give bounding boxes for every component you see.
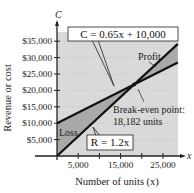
y-tick-label: $25,000: [22, 69, 52, 79]
y-tick-label: $20,000: [22, 85, 52, 95]
y-tick-label: $35,000: [22, 36, 52, 46]
break-even-chart: $5,000$10,000$15,000$20,000$25,000$30,00…: [0, 0, 194, 193]
y-axis-arrow-icon: [55, 20, 59, 26]
y-tick-label: $5,000: [27, 135, 53, 145]
x-axis-variable: x: [186, 150, 192, 161]
y-axis-variable: C: [55, 9, 62, 20]
break-even-point: [132, 82, 136, 86]
break-even-label: Break-even point:: [113, 104, 185, 115]
y-tick-label: $30,000: [22, 53, 52, 63]
profit-label: Profit: [138, 51, 161, 62]
loss-label: Loss: [59, 127, 78, 138]
x-tick-label: 15,000: [108, 160, 134, 170]
y-ticks: $5,000$10,000$15,000$20,000$25,000$30,00…: [22, 36, 60, 144]
revenue-equation-label: R = 1.2x: [91, 136, 130, 148]
y-axis-title: Revenue or cost: [2, 64, 13, 132]
cost-equation-label: C = 0.65x + 10,000: [80, 28, 166, 40]
y-tick-label: $15,000: [22, 102, 52, 112]
x-tick-label: 5,000: [68, 160, 89, 170]
x-axis-arrow-icon: [180, 154, 186, 158]
break-even-units: 18,182 units: [113, 116, 163, 127]
x-axis-title: Number of units (x): [75, 176, 159, 188]
y-tick-label: $10,000: [22, 118, 52, 128]
x-tick-label: 25,000: [150, 160, 176, 170]
